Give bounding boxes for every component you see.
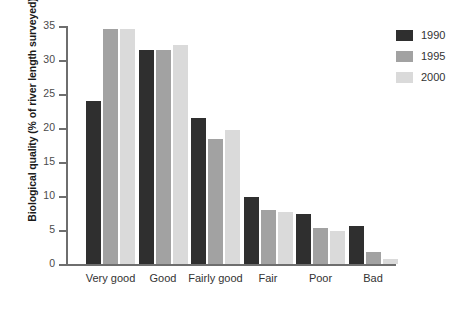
y-axis-tick-label: 0	[49, 257, 55, 269]
bar-1990-fair	[244, 197, 259, 264]
y-axis-tick: 5	[59, 230, 66, 232]
y-axis-tick-label: 15	[43, 155, 55, 167]
y-axis-tick-label: 35	[43, 19, 55, 31]
y-axis-tick-label: 20	[43, 121, 55, 133]
bar-2000-fairly-good	[225, 130, 240, 264]
bar-1995-good	[156, 50, 171, 264]
legend-item-1995[interactable]: 1995	[396, 47, 445, 65]
bar-2000-poor	[330, 231, 345, 264]
y-axis-tick: 30	[59, 60, 66, 62]
legend: 199019952000	[396, 26, 445, 89]
bar-1995-fair	[261, 210, 276, 264]
bar-group	[296, 26, 345, 264]
bar-2000-good	[173, 45, 188, 264]
y-axis-tick: 25	[59, 94, 66, 96]
y-axis-tick: 20	[59, 128, 66, 130]
bar-1995-poor	[313, 228, 328, 264]
bar-1990-good	[139, 50, 154, 264]
y-axis-tick-label: 10	[43, 189, 55, 201]
bar-2000-fair	[278, 212, 293, 264]
y-axis-line	[66, 26, 68, 264]
bar-1990-poor	[296, 214, 311, 264]
bar-1995-bad	[366, 252, 381, 264]
y-axis-tick-label: 25	[43, 87, 55, 99]
y-axis-title: Biological quality (% of river length su…	[26, 0, 38, 235]
bar-1990-fairly-good	[191, 118, 206, 264]
plot-area: 05101520253035 Very goodGoodFairly goodF…	[66, 26, 378, 264]
bar-group	[349, 26, 398, 264]
bar-1995-fairly-good	[208, 139, 223, 264]
bar-group	[139, 26, 188, 264]
bar-1995-very-good	[103, 29, 118, 264]
legend-swatch-2000	[396, 72, 413, 83]
y-axis-tick: 15	[59, 162, 66, 164]
bar-2000-bad	[383, 259, 398, 264]
bar-2000-very-good	[120, 29, 135, 264]
bar-1990-very-good	[86, 101, 101, 264]
legend-item-2000[interactable]: 2000	[396, 68, 445, 86]
y-axis-tick-label: 30	[43, 53, 55, 65]
x-axis-line	[66, 264, 396, 266]
bar-chart-figure: Biological quality (% of river length su…	[0, 0, 470, 309]
legend-swatch-1990	[396, 30, 413, 41]
y-axis-tick: 0	[59, 264, 66, 266]
legend-swatch-1995	[396, 51, 413, 62]
bar-group	[86, 26, 135, 264]
legend-label-2000: 2000	[421, 71, 445, 83]
y-axis-tick: 35	[59, 26, 66, 28]
bar-group	[191, 26, 240, 264]
legend-item-1990[interactable]: 1990	[396, 26, 445, 44]
bar-1990-bad	[349, 226, 364, 264]
legend-label-1995: 1995	[421, 50, 445, 62]
y-axis-tick-label: 5	[49, 223, 55, 235]
x-axis-label-bad: Bad	[327, 272, 420, 284]
legend-label-1990: 1990	[421, 29, 445, 41]
y-axis-tick: 10	[59, 196, 66, 198]
bar-group	[244, 26, 293, 264]
